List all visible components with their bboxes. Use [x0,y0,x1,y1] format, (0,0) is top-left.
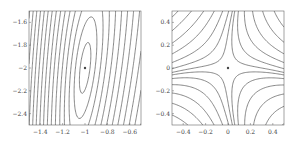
y-tick-label: −2 [18,64,27,71]
x-tick-label: −0.2 [198,128,213,135]
x-tick-label: 0.4 [268,128,278,135]
y-tick-label: −2.4 [12,110,27,117]
y-tick-label: −0.4 [155,110,170,117]
y-tick-label: −1.6 [12,18,27,25]
y-tick-label: 0.2 [160,41,170,48]
x-tick-label: −1.4 [33,128,48,135]
y-tick-label: −1.8 [12,41,27,48]
x-tick-label: −0.8 [100,128,115,135]
x-tick-label: −1 [81,128,90,135]
saddle-point-marker [227,67,229,69]
x-tick-label: −0.4 [176,128,191,135]
x-tick-label: 0 [226,128,230,135]
y-tick-label: −2.2 [12,87,27,94]
y-tick-label: 0.4 [160,18,170,25]
x-tick-label: −1.2 [55,128,70,135]
x-tick-label: 0.2 [246,128,256,135]
right-contour-plot: 0.40.20−0.2−0.4 −0.4−0.200.20.4 [150,0,305,150]
y-tick-label: 0 [166,64,170,71]
left-y-axis: −1.6−1.8−2−2.2−2.4 [12,18,31,116]
left-contour-plot: −1.6−1.8−2−2.2−2.4 −1.4−1.2−1−0.8−0.6 [0,0,150,150]
right-y-axis: 0.40.20−0.2−0.4 [155,18,174,116]
x-tick-label: −0.6 [123,128,138,135]
minimum-point-marker [84,67,86,69]
y-tick-label: −0.2 [155,87,170,94]
